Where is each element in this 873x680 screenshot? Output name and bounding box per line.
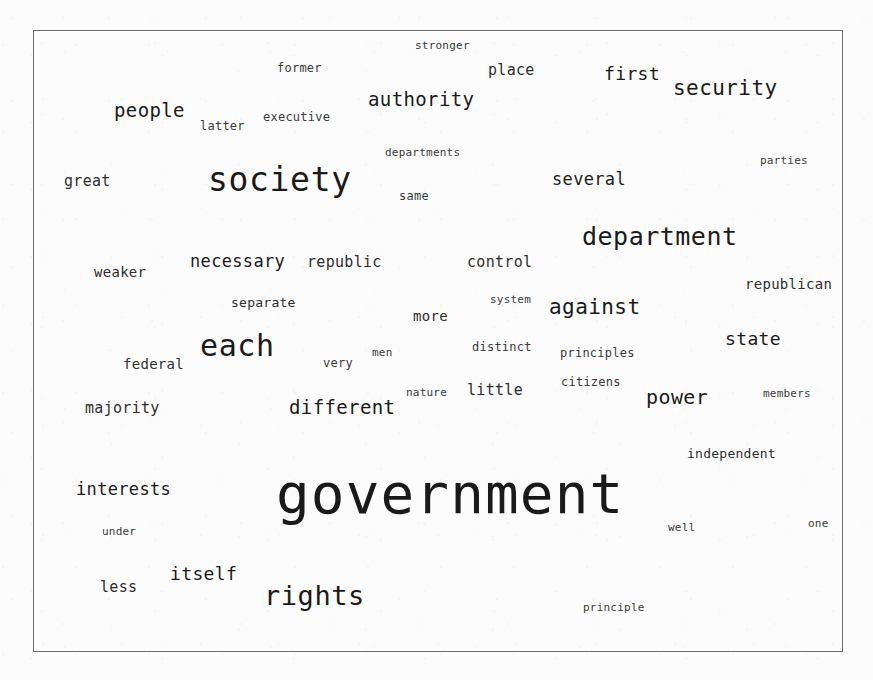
word-cloud-frame — [33, 30, 843, 652]
word-cloud-term: distinct — [472, 341, 532, 353]
word-cloud-term: little — [467, 383, 523, 398]
word-cloud-term: latter — [200, 120, 245, 132]
word-cloud-term: place — [488, 63, 535, 78]
word-cloud-term: different — [289, 398, 395, 417]
word-cloud-term: security — [673, 78, 778, 99]
word-cloud-term: departments — [385, 147, 460, 158]
word-cloud-term: republic — [307, 255, 382, 270]
word-cloud-term: rights — [264, 582, 365, 609]
word-cloud-term: independent — [687, 447, 776, 460]
word-cloud-term: former — [277, 62, 322, 74]
word-cloud-term: state — [725, 330, 781, 348]
word-cloud-term: great — [64, 174, 111, 189]
word-cloud-term: weaker — [94, 265, 146, 279]
word-cloud-term: people — [114, 101, 185, 120]
word-cloud-term: department — [582, 224, 738, 249]
word-cloud-term: several — [552, 171, 626, 188]
word-cloud-term: one — [808, 518, 829, 529]
word-cloud-term: society — [208, 163, 352, 196]
word-cloud-term: necessary — [190, 253, 285, 270]
word-cloud-term: federal — [123, 357, 184, 371]
word-cloud-term: under — [102, 526, 136, 537]
word-cloud-term: very — [323, 357, 353, 369]
word-cloud-term: principles — [560, 347, 635, 359]
word-cloud-term: control — [467, 255, 532, 270]
word-cloud-term: republican — [745, 277, 832, 291]
word-cloud-term: interests — [76, 481, 171, 498]
word-cloud-term: parties — [760, 155, 808, 166]
word-cloud-term: stronger — [415, 40, 470, 51]
word-cloud-term: authority — [368, 90, 474, 109]
word-cloud-term: nature — [406, 387, 447, 398]
word-cloud-term: first — [604, 65, 660, 83]
word-cloud-term: well — [668, 522, 695, 533]
word-cloud-term: itself — [170, 565, 237, 583]
word-cloud-term: each — [200, 331, 275, 361]
word-cloud-term: system — [490, 294, 531, 305]
word-cloud-term: power — [646, 387, 708, 407]
word-cloud-term: executive — [263, 111, 330, 123]
word-cloud-term: principle — [583, 602, 645, 613]
word-cloud-term: more — [413, 309, 448, 323]
word-cloud-term: men — [372, 347, 393, 358]
word-cloud-term: against — [549, 297, 640, 318]
word-cloud-term: citizens — [561, 376, 621, 388]
word-cloud-term: majority — [85, 401, 160, 416]
word-cloud-canvas: governmentsocietyeachrightsdepartmentsec… — [0, 0, 873, 680]
word-cloud-term: government — [276, 466, 624, 522]
word-cloud-term: separate — [231, 296, 296, 309]
word-cloud-term: same — [399, 190, 429, 202]
word-cloud-term: members — [763, 388, 811, 399]
word-cloud-term: less — [100, 580, 137, 595]
